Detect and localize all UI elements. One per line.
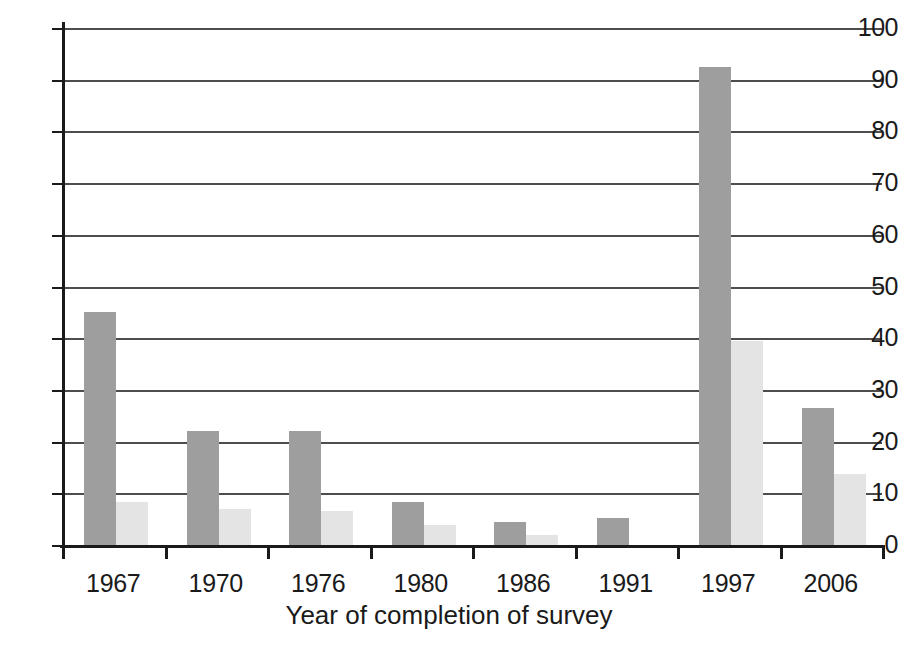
x-tick-mark-0: [62, 545, 65, 559]
x-tick-mark-6: [677, 545, 680, 559]
bar-2006-series-light: [834, 474, 866, 545]
bar-group-1967: [84, 28, 148, 545]
x-tick-mark-7: [780, 545, 783, 559]
x-tick-mark-8: [882, 545, 885, 559]
x-axis-ticks: 19671970197619801986199119972006: [62, 545, 882, 645]
y-tick-mark-90: [52, 80, 62, 82]
bar-1986-series-light: [526, 535, 558, 545]
bar-group-1970: [187, 28, 251, 545]
bar-group-1986: [494, 28, 558, 545]
bar-1980-series-light: [424, 525, 456, 545]
y-tick-mark-40: [52, 338, 62, 340]
y-tick-mark-60: [52, 235, 62, 237]
bar-1970-series-light: [219, 509, 251, 545]
y-tick-mark-10: [52, 493, 62, 495]
y-tick-mark-100: [52, 28, 62, 30]
y-tick-mark-20: [52, 442, 62, 444]
bar-1986-series-dark: [494, 522, 526, 545]
bar-1997-series-dark: [699, 67, 731, 545]
bars-layer: [62, 28, 882, 545]
y-tick-mark-50: [52, 287, 62, 289]
bar-1991-series-dark: [597, 518, 629, 545]
bar-1970-series-dark: [187, 431, 219, 545]
x-axis-title: Year of completion of survey: [0, 600, 898, 630]
bar-1976-series-light: [321, 511, 353, 545]
bar-2006-series-dark: [802, 408, 834, 545]
x-tick-mark-5: [575, 545, 578, 559]
x-tick-mark-3: [370, 545, 373, 559]
bar-1967-series-light: [116, 502, 148, 545]
bar-group-1997: [699, 28, 763, 545]
bar-chart: 0102030405060708090100 19671970197619801…: [0, 0, 898, 646]
x-tick-mark-4: [472, 545, 475, 559]
bar-group-1976: [289, 28, 353, 545]
x-tick-label-2006: 2006: [771, 569, 891, 597]
y-tick-mark-70: [52, 183, 62, 185]
bar-group-2006: [802, 28, 866, 545]
bar-1997-series-light: [731, 341, 763, 545]
bar-1980-series-dark: [392, 502, 424, 545]
y-tick-mark-30: [52, 390, 62, 392]
x-tick-mark-2: [267, 545, 270, 559]
bar-1967-series-dark: [84, 312, 116, 545]
bar-group-1991: [597, 28, 661, 545]
y-tick-mark-80: [52, 131, 62, 133]
bar-1976-series-dark: [289, 431, 321, 545]
x-tick-mark-1: [165, 545, 168, 559]
bar-group-1980: [392, 28, 456, 545]
